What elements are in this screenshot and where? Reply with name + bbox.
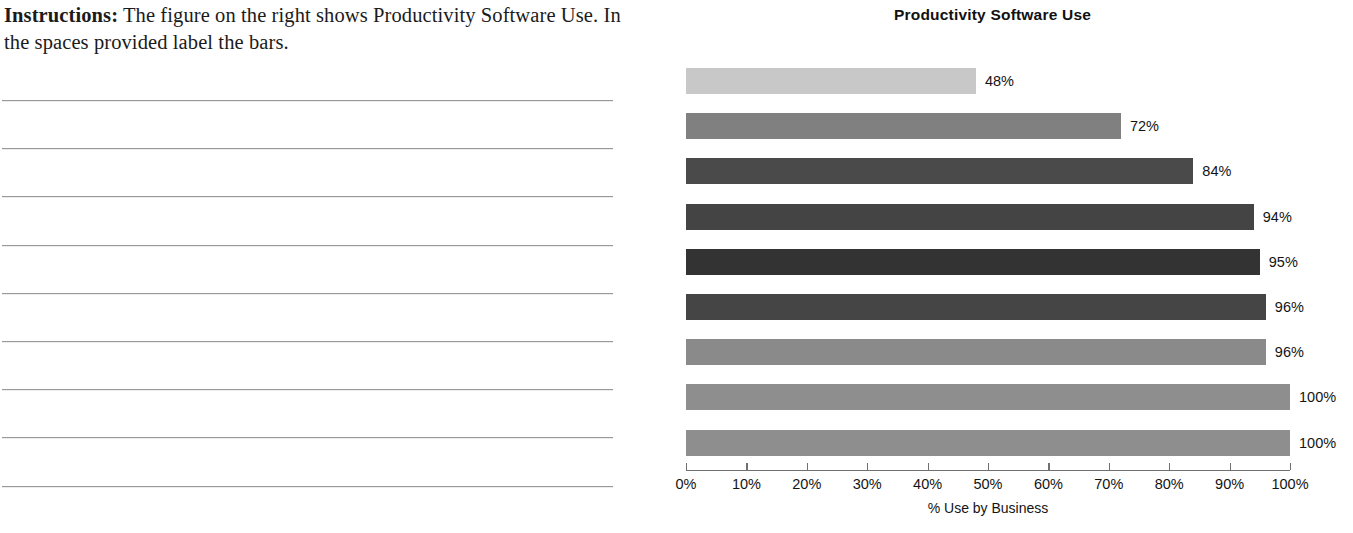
answer-line[interactable] xyxy=(2,486,613,487)
bar-value-label: 100% xyxy=(1299,384,1336,410)
bar-value-label: 72% xyxy=(1130,113,1159,139)
bar-row: 95% xyxy=(660,249,1353,275)
x-axis-tick-label: 70% xyxy=(1094,476,1123,492)
x-axis-tick-label: 100% xyxy=(1271,476,1308,492)
bar[interactable] xyxy=(686,384,1290,410)
x-axis-tick-label: 10% xyxy=(732,476,761,492)
x-axis-tick-label: 80% xyxy=(1155,476,1184,492)
answer-line[interactable] xyxy=(2,148,613,149)
x-axis-tick xyxy=(928,463,929,470)
x-axis-tick xyxy=(686,463,687,470)
chart-title: Productivity Software Use xyxy=(660,6,1325,24)
chart-plot-area: 48%72%84%94%95%96%96%100%100% xyxy=(660,60,1353,470)
x-axis-tick-label: 30% xyxy=(853,476,882,492)
bar-row: 94% xyxy=(660,204,1353,230)
bar-row: 96% xyxy=(660,294,1353,320)
instructions-label: Instructions: xyxy=(4,4,118,26)
bar-row: 100% xyxy=(660,430,1353,456)
x-axis-tick-label: 20% xyxy=(792,476,821,492)
x-axis-tick xyxy=(1169,463,1170,470)
x-axis-tick-label: 40% xyxy=(913,476,942,492)
answer-line[interactable] xyxy=(2,437,613,438)
bar-row: 96% xyxy=(660,339,1353,365)
bar-value-label: 96% xyxy=(1275,294,1304,320)
bar-value-label: 96% xyxy=(1275,339,1304,365)
bar-value-label: 95% xyxy=(1269,249,1298,275)
bar[interactable] xyxy=(686,68,976,94)
instructions-text: Instructions: The figure on the right sh… xyxy=(4,2,644,56)
bar-row: 84% xyxy=(660,158,1353,184)
x-axis-line xyxy=(686,470,1290,471)
bar-row: 72% xyxy=(660,113,1353,139)
x-axis-tick xyxy=(746,463,747,470)
bar[interactable] xyxy=(686,430,1290,456)
answer-line[interactable] xyxy=(2,196,613,197)
x-axis-tick-label: 50% xyxy=(973,476,1002,492)
x-axis-tick xyxy=(867,463,868,470)
bar-row: 48% xyxy=(660,68,1353,94)
answer-line[interactable] xyxy=(2,100,613,101)
bar-value-label: 84% xyxy=(1202,158,1231,184)
bar[interactable] xyxy=(686,249,1260,275)
bar-value-label: 48% xyxy=(985,68,1014,94)
x-axis-title: % Use by Business xyxy=(686,500,1290,516)
x-axis-tick xyxy=(1109,463,1110,470)
x-axis: % Use by Business 0%10%20%30%40%50%60%70… xyxy=(660,470,1353,533)
x-axis-tick-label: 0% xyxy=(676,476,697,492)
bar[interactable] xyxy=(686,294,1266,320)
x-axis-tick xyxy=(807,463,808,470)
bar-chart: Productivity Software Use 48%72%84%94%95… xyxy=(660,0,1353,533)
answer-line[interactable] xyxy=(2,245,613,246)
answer-line[interactable] xyxy=(2,293,613,294)
bar-row: 100% xyxy=(660,384,1353,410)
x-axis-tick-label: 60% xyxy=(1034,476,1063,492)
bar[interactable] xyxy=(686,339,1266,365)
bar[interactable] xyxy=(686,113,1121,139)
answer-lines-area xyxy=(0,86,660,506)
x-axis-tick xyxy=(988,463,989,470)
bar-value-label: 94% xyxy=(1263,204,1292,230)
x-axis-tick xyxy=(1230,463,1231,470)
bar[interactable] xyxy=(686,204,1254,230)
bar-value-label: 100% xyxy=(1299,430,1336,456)
answer-line[interactable] xyxy=(2,341,613,342)
bar[interactable] xyxy=(686,158,1193,184)
worksheet-panel: Instructions: The figure on the right sh… xyxy=(0,0,660,533)
x-axis-tick xyxy=(1048,463,1049,470)
x-axis-tick xyxy=(1290,463,1291,470)
x-axis-tick-label: 90% xyxy=(1215,476,1244,492)
answer-line[interactable] xyxy=(2,389,613,390)
